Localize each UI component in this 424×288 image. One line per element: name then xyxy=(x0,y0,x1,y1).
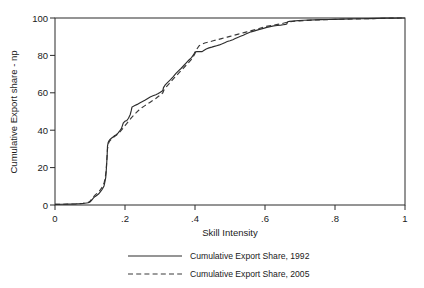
x-tick-label: .2 xyxy=(121,213,129,224)
cumulative-export-share-chart: Cumulative Export share - np 0 20 40 60 … xyxy=(0,0,424,288)
y-tick-label: 40 xyxy=(37,125,48,136)
y-axis-title: Cumulative Export share - np xyxy=(8,50,19,173)
y-tick-label: 0 xyxy=(43,200,48,211)
x-tick-label: 0 xyxy=(52,213,57,224)
x-tick-label: .6 xyxy=(261,213,269,224)
y-tick-label: 100 xyxy=(32,13,48,24)
legend-label-2005: Cumulative Export Share, 2005 xyxy=(190,269,310,279)
y-tick-label: 20 xyxy=(37,162,48,173)
legend-label-1992: Cumulative Export Share, 1992 xyxy=(190,251,310,261)
y-tick-label: 60 xyxy=(37,87,48,98)
x-axis-title: Skill Intensity xyxy=(202,227,258,238)
x-tick-label: .8 xyxy=(331,213,339,224)
y-tick-label: 80 xyxy=(37,50,48,61)
x-tick-label: 1 xyxy=(402,213,407,224)
x-tick-label: .4 xyxy=(191,213,199,224)
chart-background xyxy=(0,0,424,288)
